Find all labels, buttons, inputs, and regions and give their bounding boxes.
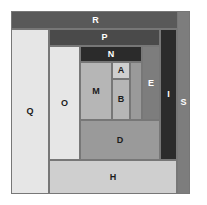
piece-a: A bbox=[112, 62, 130, 79]
piece-label-s: S bbox=[180, 98, 186, 107]
piece-h: H bbox=[49, 160, 177, 194]
piece-label-e: E bbox=[148, 79, 154, 88]
piece-n-right-gap bbox=[130, 62, 142, 120]
piece-label-d: D bbox=[117, 136, 124, 145]
piece-label-p: P bbox=[101, 33, 107, 42]
piece-p: P bbox=[49, 29, 160, 46]
piece-label-o: O bbox=[61, 99, 68, 108]
piece-label-m: M bbox=[92, 87, 100, 96]
piece-i: I bbox=[160, 29, 177, 160]
piece-o: O bbox=[49, 46, 80, 160]
piece-label-b: B bbox=[118, 95, 125, 104]
piece-s: S bbox=[177, 11, 190, 194]
piece-n: N bbox=[80, 46, 142, 62]
piece-q: Q bbox=[11, 29, 49, 194]
piece-d: D bbox=[80, 120, 160, 160]
piece-b: B bbox=[112, 79, 130, 120]
dissection-diagram: RQPONEISMABDH bbox=[0, 0, 207, 205]
piece-r: R bbox=[11, 11, 180, 29]
piece-label-n: N bbox=[108, 50, 115, 59]
piece-label-q: Q bbox=[26, 107, 33, 116]
piece-m: M bbox=[80, 62, 112, 120]
piece-label-h: H bbox=[110, 173, 117, 182]
piece-label-i: I bbox=[167, 90, 170, 99]
piece-label-r: R bbox=[92, 16, 99, 25]
piece-label-a: A bbox=[118, 66, 125, 75]
piece-e: E bbox=[142, 46, 160, 120]
